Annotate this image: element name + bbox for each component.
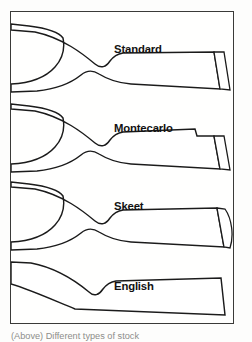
stock-english-label: English [114, 280, 154, 292]
figure-caption: (Above) Different types of stock [11, 330, 241, 342]
gun-stock-diagram: Standard Montecarlo Skeet English [11, 12, 233, 323]
figure-frame: Standard Montecarlo Skeet English [10, 11, 234, 324]
stock-montecarlo-label: Montecarlo [114, 122, 173, 134]
stock-standard-label: Standard [114, 43, 162, 55]
stock-standard: Standard [11, 24, 230, 92]
stock-english: English [11, 262, 225, 315]
stock-skeet: Skeet [11, 182, 232, 250]
stock-montecarlo-outline [11, 104, 220, 172]
stock-skeet-outline [11, 182, 224, 250]
figure-root: Standard Montecarlo Skeet English (Above… [0, 0, 252, 342]
stock-skeet-label: Skeet [114, 200, 144, 212]
stock-standard-outline [11, 24, 220, 92]
stock-montecarlo: Montecarlo [11, 104, 230, 172]
